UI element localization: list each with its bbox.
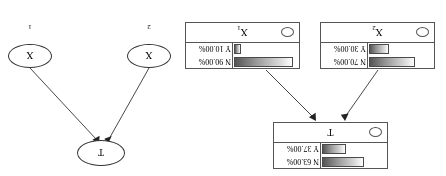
left-panel-belief-network: N 63.00% Y 37.00% T [223,0,446,176]
node-t-name-area: T [274,123,387,142]
node-x2-bar-fill-n [369,57,415,67]
dag-node-x1-subscript: 1 [28,23,32,31]
node-x1-bar-fill-n [234,57,293,67]
dag-node-x2[interactable]: X2 [127,44,171,68]
right-panel-dag: T X2 X1 [0,0,223,176]
node-x1-bar-fill-y [234,44,241,54]
node-t-state-row-y: Y 37.00% [274,142,387,155]
node-t-state-label-n: N 63.00% [274,155,321,168]
node-t-bar-track-y [321,142,387,155]
edge-x1-to-t [266,70,313,117]
node-t-label: T [274,123,387,142]
node-x2-state-label-n: N 70.00% [321,55,368,68]
node-x2-state-label-y: Y 30.00% [321,42,368,55]
figure-canvas: N 63.00% Y 37.00% T [0,0,446,176]
node-t-label-text: T [327,127,333,138]
dag-node-t[interactable]: T [77,140,125,166]
node-x2-bar-track-n [368,55,434,68]
node-x1-label-text: X [241,27,248,38]
node-box-x2[interactable]: N 70.00% Y 30.00% X2 [320,22,435,69]
node-t-bar-fill-n [322,157,364,167]
node-x1-label-subscript: 1 [237,24,241,32]
node-x2-name-area: X2 [321,23,434,42]
node-x2-bar-area: N 70.00% Y 30.00% [321,42,434,68]
node-x2-state-row-y: Y 30.00% [321,42,434,55]
node-t-bar-track-n [321,155,387,168]
dag-node-x2-subscript: 2 [147,23,151,31]
dag-node-t-label: T [78,139,124,165]
node-box-t[interactable]: N 63.00% Y 37.00% T [273,122,388,169]
dag-node-x2-label: X [128,43,170,67]
node-x2-label: X2 [321,18,434,42]
node-x1-bar-track-n [233,55,299,68]
node-x2-label-subscript: 2 [372,24,376,32]
node-x1-bar-track-y [233,42,299,55]
node-x2-bar-track-y [368,42,434,55]
dag-node-x1-label: X [9,43,51,67]
node-t-state-row-n: N 63.00% [274,155,387,168]
node-x2-bar-fill-y [369,44,389,54]
node-x2-label-text: X [376,27,383,38]
node-t-bar-fill-y [322,144,346,154]
dag-edge-x2-to-t [109,68,149,139]
dag-edge-x1-to-t [30,68,96,139]
arrowhead-x2-to-t [341,113,349,121]
node-t-state-label-y: Y 37.00% [274,142,321,155]
node-x2-state-row-n: N 70.00% [321,55,434,68]
edge-x2-to-t [345,70,378,117]
dag-node-x1[interactable]: X1 [8,44,52,68]
node-t-bar-area: N 63.00% Y 37.00% [274,142,387,168]
